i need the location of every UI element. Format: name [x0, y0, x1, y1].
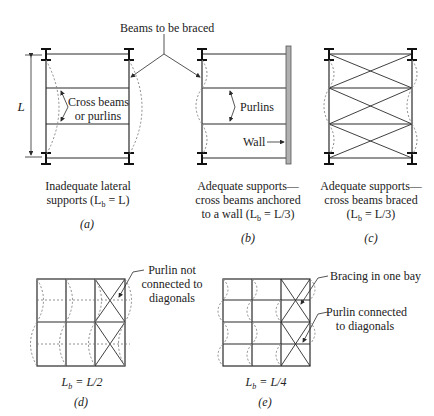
- caption-d: Lb = L/2: [52, 375, 112, 394]
- panel-d-frame: [37, 279, 125, 366]
- panel-b-tag: (b): [235, 231, 261, 245]
- purlin-connected-line2: to diagonals: [326, 319, 404, 333]
- caption-b-line1: Adequate supports—: [186, 179, 310, 193]
- caption-c-text: (L: [347, 207, 358, 221]
- wall: [286, 46, 291, 164]
- caption-b-text: to a wall (L: [201, 207, 257, 221]
- panel-d-tag: (d): [68, 395, 94, 409]
- caption-b: Adequate supports— cross beams anchored …: [186, 179, 310, 226]
- caption-c-line3: (Lb = L/3): [310, 207, 432, 226]
- cross-beams-label: Cross beams or purlins: [68, 95, 128, 123]
- purlin-connected-label: Purlin connected to diagonals: [326, 305, 404, 333]
- caption-b-end: = L/3): [261, 207, 294, 221]
- caption-a-text: supports (L: [46, 193, 101, 207]
- caption-d-end: = L/2: [72, 375, 102, 389]
- panel-c-frame: [329, 54, 412, 162]
- beams-to-be-braced-leaders: [131, 34, 200, 77]
- dimension-label-l: L: [14, 100, 28, 114]
- caption-c-line2: cross beams braced: [310, 193, 432, 207]
- purlin-connected-line1: Purlin connected: [326, 305, 404, 319]
- cross-beams-line2: or purlins: [68, 109, 128, 123]
- bracing-in-one-bay-label: Bracing in one bay: [330, 269, 421, 283]
- panel-e-tag: (e): [252, 395, 278, 409]
- caption-e: Lb = L/4: [236, 375, 296, 394]
- caption-b-line2: cross beams anchored: [186, 193, 310, 207]
- panel-c-tag: (c): [358, 231, 384, 245]
- caption-c-line1: Adequate supports—: [310, 179, 432, 193]
- purlins-callout: [230, 91, 235, 121]
- panel-e-frame: [223, 279, 310, 366]
- cross-beams-line1: Cross beams: [68, 95, 128, 109]
- caption-a-line2: supports (Lb = L): [30, 193, 146, 212]
- caption-b-line3: to a wall (Lb = L/3): [186, 207, 310, 226]
- caption-e-end: = L/4: [256, 375, 286, 389]
- cross-bracing-c: [329, 54, 412, 158]
- panel-a-tag: (a): [74, 217, 100, 231]
- wall-label: Wall: [243, 135, 265, 149]
- purlin-not-connected-line2: connected to: [140, 277, 204, 291]
- cross-beams-callout: [61, 91, 68, 121]
- purlin-not-connected-line1: Purlin not: [140, 263, 204, 277]
- purlins-label: Purlins: [240, 100, 274, 114]
- caption-a: Inadequate lateral supports (Lb = L): [30, 179, 146, 212]
- caption-a-end: = L): [105, 193, 129, 207]
- purlin-not-connected-line3: diagonals: [140, 291, 204, 305]
- caption-c-end: = L/3): [362, 207, 395, 221]
- caption-a-line1: Inadequate lateral: [30, 179, 146, 193]
- i-beam-icons-c: [324, 49, 417, 164]
- caption-c: Adequate supports— cross beams braced (L…: [310, 179, 432, 226]
- beams-to-be-braced-label: Beams to be braced: [120, 21, 210, 35]
- purlin-not-connected-label: Purlin not connected to diagonals: [140, 263, 204, 305]
